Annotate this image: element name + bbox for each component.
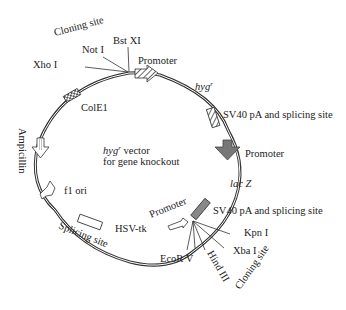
lacz-label: lac Z [230,178,251,189]
sv40-bottom-label: SV40 pA and splicing site [213,205,323,216]
sv40-bottom: SV40 pA and splicing site [191,198,323,219]
promoter-right: Promoter [215,140,285,160]
cloning-site-top-label: Cloning site [53,14,105,38]
promoter-right-label: Promoter [245,148,285,159]
hsv-tk-label: HSV-tk [115,223,147,234]
cole1-label: ColE1 [81,102,108,113]
promoter-hsv: Promoter [148,195,189,230]
ampicillin-label: Ampicillin [17,128,28,174]
promoter-hsv-label: Promoter [148,195,189,220]
splicing-site: Splicing site [57,214,110,249]
ampicillin-gene: Ampicillin [17,128,49,174]
enzyme-ecor-v: EcoR V [160,253,194,264]
enzyme-kpn-i: Kpn I [244,227,269,238]
enzyme-not-i: Not I [82,44,104,55]
enzyme-hind-iii: Hind III [205,249,232,284]
sv40-top-label: SV40 pA and splicing site [223,109,333,120]
f1-ori: f1 ori [40,181,87,199]
plasmid-map: Cloning site Xho I Not I Bst XI Promoter… [0,0,346,310]
enzyme-bst-xi: Bst XI [113,35,141,46]
f1-ori-label: f1 ori [64,185,87,196]
cole1: ColE1 [63,88,108,113]
promoter-top-label: Promoter [138,55,178,66]
center-title-line2: for gene knockout [103,156,179,167]
center-title: hygr vector for gene knockout [103,144,179,167]
hygr-label: hygr [195,80,213,92]
enzyme-xho-i: Xho I [33,59,58,70]
center-title-line1: hygr vector [103,144,150,156]
cloning-site-top: Cloning site Xho I Not I Bst XI [33,14,141,72]
